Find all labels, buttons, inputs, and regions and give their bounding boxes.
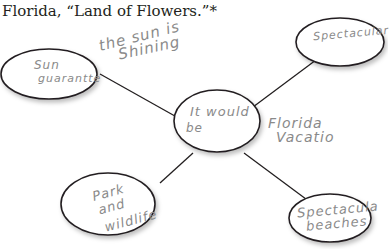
center-annotation-2: Vacatio [276,131,334,144]
center-label-1: It would [190,105,250,118]
center-label-2: be [186,122,203,135]
sun-label-2: guarantte [38,72,101,85]
sun-label-1: Sun [34,59,60,72]
